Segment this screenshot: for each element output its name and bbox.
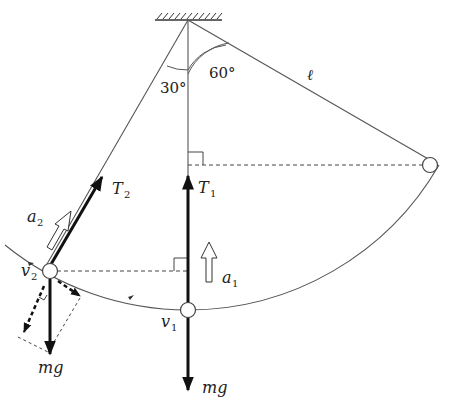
mg-left-label: mg xyxy=(38,358,63,377)
ceiling xyxy=(155,13,222,20)
v1-sub: 1 xyxy=(171,322,177,333)
angle-left-label: 30° xyxy=(160,79,187,97)
v1-label: v xyxy=(161,312,170,331)
a1-sub: 1 xyxy=(232,278,238,289)
length-label: ℓ xyxy=(307,66,313,84)
t2-sub: 2 xyxy=(124,189,130,200)
mg-bottom-label: mg xyxy=(202,378,227,397)
accel-1-arrow xyxy=(201,242,217,282)
v2-label: v xyxy=(21,261,30,280)
v2-sub: 2 xyxy=(31,271,37,282)
t1-sub: 1 xyxy=(210,188,216,199)
a2-sub: 2 xyxy=(37,217,43,228)
a2-label: a xyxy=(27,207,37,226)
t1-label: T xyxy=(198,178,210,197)
pendulum-diagram: 30° 60° ℓ T 1 T 2 a 1 a 2 v 1 v 2 mg mg xyxy=(0,0,455,418)
t2-label: T xyxy=(112,179,124,198)
a1-label: a xyxy=(222,268,232,287)
arc-arrow-1 xyxy=(128,295,134,300)
ball-bottom xyxy=(181,303,196,318)
strings xyxy=(47,20,430,302)
angle-right-label: 60° xyxy=(209,64,236,82)
dashed-guides xyxy=(50,165,433,271)
ball-left xyxy=(43,264,58,279)
ball-right xyxy=(423,158,438,173)
string-right xyxy=(188,20,430,160)
